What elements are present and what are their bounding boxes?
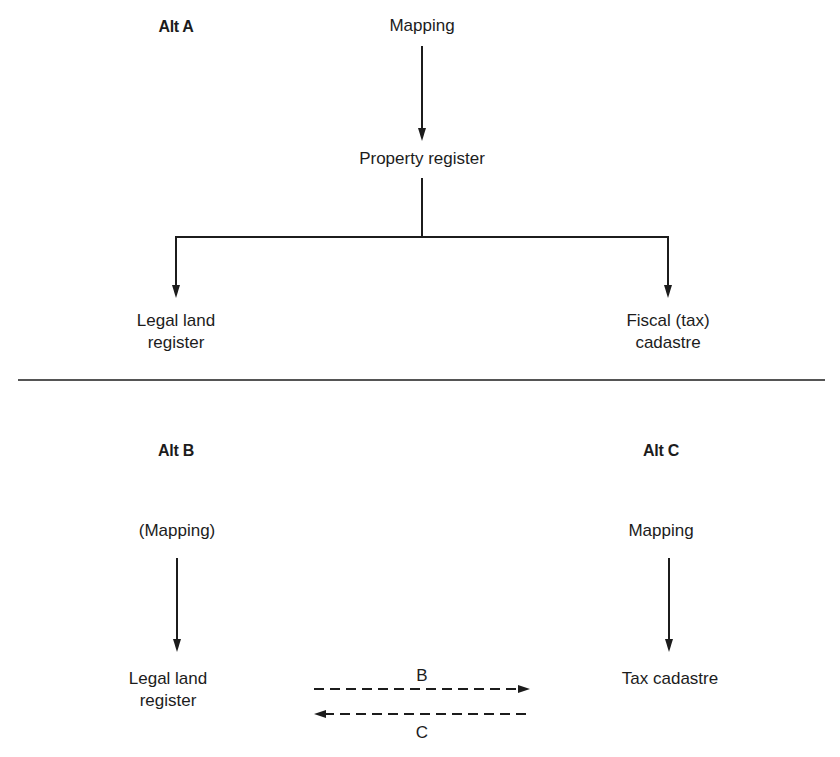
legal-land-register-line1: Legal land [137, 310, 215, 332]
alt-a-legal-land-register-node: Legal land register [137, 310, 215, 354]
alt-b-legal-land-register-line2: register [129, 690, 207, 712]
fiscal-cadastre-line2: cadastre [626, 332, 709, 354]
legal-land-register-line2: register [137, 332, 215, 354]
diagram-canvas [0, 0, 840, 757]
arrow-alt-c-mapping-to-tax-cadastre [665, 558, 673, 652]
branch-connector [172, 178, 672, 298]
arrow-mapping-to-property-register [418, 46, 426, 141]
arrow-b-label: B [416, 665, 427, 687]
dashed-arrow-c-left [314, 710, 530, 718]
alt-b-mapping-node: (Mapping) [139, 520, 216, 542]
arrow-alt-b-mapping-to-legal-register [173, 558, 181, 652]
fiscal-cadastre-line1: Fiscal (tax) [626, 310, 709, 332]
alt-a-property-register-node: Property register [359, 148, 485, 170]
alt-b-title: Alt B [158, 440, 194, 462]
alt-b-legal-land-register-node: Legal land register [129, 668, 207, 712]
alt-c-mapping-node: Mapping [628, 520, 693, 542]
alt-a-mapping-node: Mapping [389, 15, 454, 37]
alt-a-title: Alt A [158, 16, 193, 38]
alt-b-legal-land-register-line1: Legal land [129, 668, 207, 690]
arrow-c-label: C [416, 722, 428, 744]
alt-c-tax-cadastre-node: Tax cadastre [622, 668, 718, 690]
alt-c-title: Alt C [643, 440, 679, 462]
alt-a-fiscal-cadastre-node: Fiscal (tax) cadastre [626, 310, 709, 354]
